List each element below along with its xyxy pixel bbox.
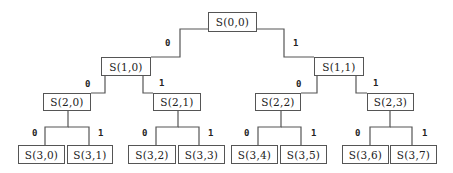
edge-connector <box>258 111 281 145</box>
edge-connector <box>356 76 367 93</box>
tree-node-s20: S(2,0) <box>43 93 91 111</box>
tree-node-s00: S(0,0) <box>208 12 257 32</box>
edge-connector <box>156 111 178 145</box>
edge-bit-label: 1 <box>311 128 316 138</box>
edge-bit-label: 0 <box>296 79 301 89</box>
edge-connector <box>45 111 68 145</box>
binary-tree-diagram: S(0,0)S(1,0)S(1,1)S(2,0)S(2,1)S(2,2)S(2,… <box>0 0 453 173</box>
tree-node-s10: S(1,0) <box>101 57 151 76</box>
tree-node-s34: S(3,4) <box>231 145 278 164</box>
edge-bit-label: 0 <box>355 128 360 138</box>
tree-node-s36: S(3,6) <box>342 145 389 164</box>
tree-node-s22: S(2,2) <box>255 93 301 111</box>
edge-bit-label: 0 <box>165 38 170 48</box>
tree-node-s32: S(3,2) <box>128 145 176 164</box>
edge-bit-label: 1 <box>422 128 427 138</box>
tree-node-s11: S(1,1) <box>314 57 364 76</box>
edge-connector <box>91 76 105 93</box>
edge-bit-label: 1 <box>208 128 213 138</box>
edge-connector <box>151 29 208 57</box>
edge-bit-label: 0 <box>32 128 37 138</box>
tree-node-s30: S(3,0) <box>18 145 65 164</box>
edge-connector <box>281 127 301 145</box>
edge-bit-label: 1 <box>98 128 103 138</box>
edge-bit-label: 1 <box>159 78 164 88</box>
tree-node-s33: S(3,3) <box>178 145 225 164</box>
tree-node-s21: S(2,1) <box>153 93 201 111</box>
edge-bit-label: 1 <box>373 78 378 88</box>
edge-bit-label: 0 <box>85 79 90 89</box>
tree-node-s23: S(2,3) <box>367 93 414 111</box>
edge-bit-label: 1 <box>293 38 298 48</box>
tree-node-s35: S(3,5) <box>280 145 327 164</box>
tree-node-s31: S(3,1) <box>67 145 113 164</box>
edge-bit-label: 0 <box>244 128 249 138</box>
edge-connector <box>143 76 153 93</box>
tree-node-s37: S(3,7) <box>390 145 437 164</box>
edge-connector <box>178 127 199 145</box>
edge-bit-label: 0 <box>142 128 147 138</box>
edge-connector <box>301 76 317 93</box>
edge-connector <box>370 111 390 145</box>
edge-connector <box>390 127 412 145</box>
edge-connector <box>68 127 89 145</box>
edge-connector <box>257 29 314 57</box>
